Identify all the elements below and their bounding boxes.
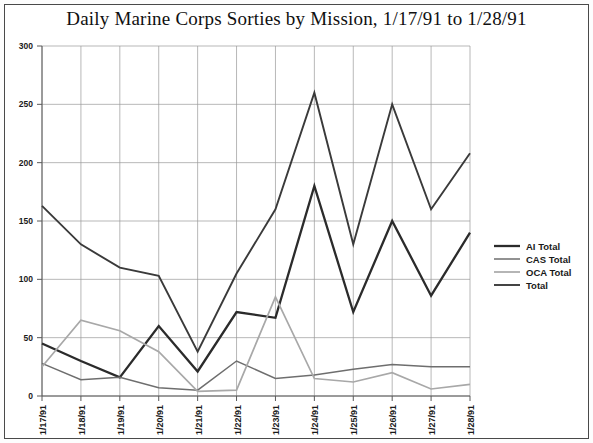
x-axis-tick-labels: 1/17/911/18/911/19/911/20/911/21/911/22/… xyxy=(38,405,476,435)
y-axis-tick-labels: 050100150200250300 xyxy=(19,41,33,401)
y-tick-label: 100 xyxy=(19,274,33,284)
x-tick-label: 1/27/91 xyxy=(427,405,437,435)
x-tick-label: 1/22/91 xyxy=(233,405,243,435)
chart-figure: Daily Marine Corps Sorties by Mission, 1… xyxy=(0,0,593,443)
y-tick-label: 200 xyxy=(19,158,33,168)
chart-legend: AI TotalCAS TotalOCA TotalTotal xyxy=(494,241,571,291)
y-tick-label: 0 xyxy=(28,391,33,401)
legend-label-oca-total: OCA Total xyxy=(526,267,571,278)
line-chart-plot: 050100150200250300 1/17/911/18/911/19/91… xyxy=(0,0,593,443)
x-tick-label: 1/25/91 xyxy=(349,405,359,435)
y-tick-label: 150 xyxy=(19,216,33,226)
x-tick-label: 1/17/91 xyxy=(38,405,48,435)
x-tick-label: 1/21/91 xyxy=(194,405,204,435)
legend-label-total: Total xyxy=(526,280,548,291)
x-tick-label: 1/26/91 xyxy=(388,405,398,435)
y-tick-label: 50 xyxy=(24,333,34,343)
y-tick-label: 300 xyxy=(19,41,33,51)
legend-label-cas-total: CAS Total xyxy=(526,254,571,265)
x-tick-label: 1/19/91 xyxy=(116,405,126,435)
x-tick-label: 1/18/91 xyxy=(77,405,87,435)
x-tick-label: 1/28/91 xyxy=(466,405,476,435)
x-tick-label: 1/23/91 xyxy=(271,405,281,435)
y-tick-label: 250 xyxy=(19,99,33,109)
x-tick-label: 1/24/91 xyxy=(310,405,320,435)
x-tick-label: 1/20/91 xyxy=(155,405,165,435)
legend-label-ai-total: AI Total xyxy=(526,241,560,252)
